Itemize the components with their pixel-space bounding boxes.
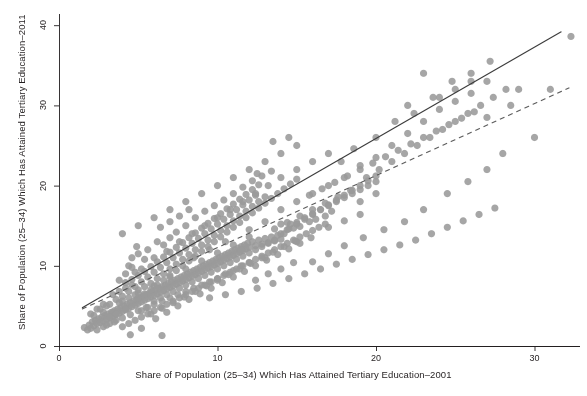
- x-axis-label: Share of Population (25–34) Which Has At…: [0, 369, 587, 380]
- y-tick-label: 20: [38, 178, 48, 194]
- x-tick-label: 30: [529, 353, 539, 363]
- y-tick-label: 30: [38, 97, 48, 113]
- x-tick-label: 0: [56, 353, 61, 363]
- x-tick-label: 10: [212, 353, 222, 363]
- y-tick-label: 0: [38, 338, 48, 354]
- x-tick-label: 20: [371, 353, 381, 363]
- scatter-plot-canvas: [0, 0, 587, 396]
- scatter-chart-figure: Share of Population (25–34) Which Has At…: [0, 0, 587, 396]
- y-tick-label: 40: [38, 17, 48, 33]
- y-axis-label: Share of Population (25–34) Which Has At…: [16, 14, 27, 330]
- y-tick-label: 10: [38, 258, 48, 274]
